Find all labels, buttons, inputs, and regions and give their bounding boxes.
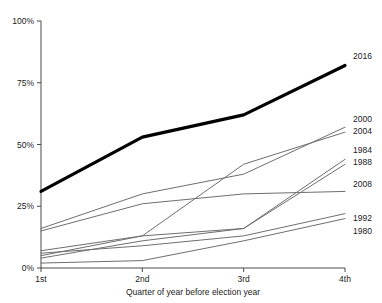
- series-line-2004: [41, 132, 345, 251]
- series-label-2008: 2008: [353, 179, 372, 189]
- y-tick-label: 25%: [17, 201, 34, 211]
- x-tick-label: 1st: [35, 274, 47, 284]
- y-axis-ticks: 0%25%50%75%100%: [12, 16, 41, 273]
- chart-container: 0%25%50%75%100% 1st2nd3rd4th 20162000200…: [0, 0, 382, 303]
- chart-series-lines: [41, 65, 345, 263]
- x-axis-ticks: 1st2nd3rd4th: [35, 268, 351, 284]
- x-tick-label: 3rd: [238, 274, 251, 284]
- y-tick-label: 100%: [12, 16, 34, 26]
- x-tick-label: 2nd: [135, 274, 149, 284]
- series-label-2000: 2000: [353, 114, 372, 124]
- series-line-2008: [41, 191, 345, 231]
- series-line-2016: [41, 65, 345, 191]
- series-label-2004: 2004: [353, 126, 372, 136]
- y-tick-label: 75%: [17, 78, 34, 88]
- x-axis-title: Quarter of year before election year: [126, 287, 260, 297]
- chart-axes: [41, 21, 345, 268]
- x-tick-label: 4th: [339, 274, 351, 284]
- y-tick-label: 0%: [22, 263, 35, 273]
- series-label-1992: 1992: [353, 213, 372, 223]
- series-label-1980: 1980: [353, 226, 372, 236]
- series-label-2016: 2016: [353, 51, 372, 61]
- series-label-1984: 1984: [353, 145, 372, 155]
- y-tick-label: 50%: [17, 140, 34, 150]
- series-label-1988: 1988: [353, 157, 372, 167]
- line-chart: 0%25%50%75%100% 1st2nd3rd4th 20162000200…: [0, 0, 382, 303]
- series-line-2000: [41, 127, 345, 228]
- chart-series-labels: 20162000200419841988200819921980: [353, 51, 372, 236]
